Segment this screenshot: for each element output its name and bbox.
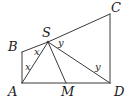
vertex-label-S: S [42,26,51,39]
vertex-label-A: A [8,85,17,98]
vertex-label-M: M [61,85,74,98]
angle-label-x-at-A: x [25,62,31,72]
vertex-label-B: B [8,40,18,53]
angle-label-y-at-D: y [95,62,101,72]
geometry-figure: A B C D S M x x y y [0,0,131,104]
vertex-dots-group [47,41,50,44]
vertex-label-D: D [114,85,124,98]
vertex-dot-S [47,41,50,44]
angle-label-x-at-S: x [34,47,40,57]
angle-label-y-at-S: y [58,38,64,48]
vertex-label-C: C [111,1,121,14]
